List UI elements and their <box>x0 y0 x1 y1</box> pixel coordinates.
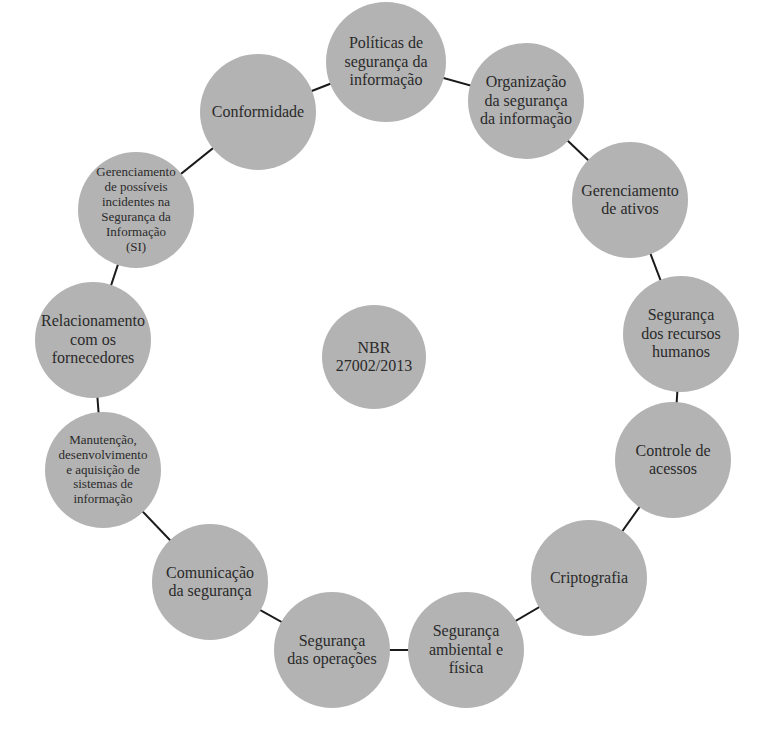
node-seguranca-operacoes: Segurança das operações <box>274 592 390 708</box>
node-organizacao-seguranca: Organização da segurança da informação <box>468 43 584 159</box>
node-criptografia: Criptografia <box>531 520 647 636</box>
node-gerenciamento-incidentes: Gerenciamento de possíveis incidentes na… <box>78 152 194 268</box>
node-relacionamento-fornecedores: Relacionamento com os fornecedores <box>35 282 151 398</box>
node-label: Segurança dos recursos humanos <box>641 306 721 361</box>
node-label: Gerenciamento de possíveis incidentes na… <box>96 165 175 255</box>
node-label: Controle de acessos <box>635 442 710 479</box>
node-controle-acessos: Controle de acessos <box>615 402 731 518</box>
node-label: Criptografia <box>550 569 628 587</box>
center-node-nbr-27002: NBR 27002/2013 <box>322 305 426 409</box>
node-label: Manutenção, desenvolvimento e aquisição … <box>59 433 148 508</box>
node-label: Segurança das operações <box>287 632 376 669</box>
node-label: Gerenciamento de ativos <box>581 182 679 219</box>
node-gerenciamento-ativos: Gerenciamento de ativos <box>572 142 688 258</box>
node-label: Comunicação da segurança <box>166 564 254 601</box>
node-label: Conformidade <box>212 103 304 121</box>
node-label: Políticas de segurança da informação <box>344 34 427 89</box>
node-label: Organização da segurança da informação <box>480 73 572 128</box>
node-label: Segurança ambiental e física <box>429 622 503 677</box>
center-node-label: NBR 27002/2013 <box>336 339 412 376</box>
node-comunicacao-seguranca: Comunicação da segurança <box>152 524 268 640</box>
node-seguranca-ambiental-fisica: Segurança ambiental e física <box>408 592 524 708</box>
node-label: Relacionamento com os fornecedores <box>41 312 145 367</box>
node-manutencao-sistemas: Manutenção, desenvolvimento e aquisição … <box>45 412 161 528</box>
node-politicas-seguranca: Políticas de segurança da informação <box>326 2 446 122</box>
node-seguranca-recursos-humanos: Segurança dos recursos humanos <box>623 276 739 392</box>
node-conformidade: Conformidade <box>200 54 316 170</box>
nbr-27002-diagram: NBR 27002/2013 Políticas de segurança da… <box>0 0 759 735</box>
